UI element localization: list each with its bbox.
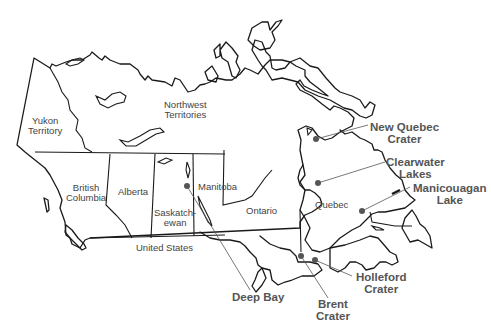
crater-marker-deep-bay xyxy=(184,183,190,189)
leader-deep-bay xyxy=(187,186,250,290)
haida-gwaii xyxy=(44,198,49,212)
manicouagan-reservoir xyxy=(392,190,400,194)
region-label-nwt: Northwest Territories xyxy=(164,100,207,120)
crater-marker-clearwater xyxy=(315,180,321,186)
region-label-bc: British Columbia xyxy=(66,183,106,203)
crater-marker-holleford xyxy=(312,257,318,263)
region-label-alberta: Alberta xyxy=(118,187,148,197)
region-nwt-line2: Territories xyxy=(164,110,207,120)
crater-label-brent: Brent Crater xyxy=(316,298,350,322)
crater-clearwater-line1: Clearwater xyxy=(386,156,445,168)
crater-new-quebec-line1: New Quebec xyxy=(370,121,439,133)
ontario-quebec-border xyxy=(300,210,301,252)
crater-marker-new-quebec xyxy=(313,136,319,142)
lake-winnipeg xyxy=(198,196,212,226)
region-label-us: United States xyxy=(136,243,193,253)
region-label-quebec: Quebec xyxy=(315,200,348,210)
region-us-line1: United States xyxy=(136,243,193,253)
region-ontario-line1: Ontario xyxy=(246,206,277,216)
crater-label-clearwater: Clearwater Lakes xyxy=(386,156,445,180)
manitoba-ontario-border xyxy=(223,150,272,205)
arctic-islands xyxy=(205,42,240,82)
crater-label-deep-bay: Deep Bay xyxy=(232,291,284,303)
quebec-labrador-border xyxy=(370,212,412,226)
region-manitoba-line1: Manitoba xyxy=(198,182,237,192)
maritimes-coastline xyxy=(330,236,398,272)
reindeer-lake xyxy=(186,162,190,178)
arctic-coastal-island xyxy=(66,58,84,66)
region-alberta-line1: Alberta xyxy=(118,187,148,197)
region-quebec-line1: Quebec xyxy=(315,200,348,210)
region-yukon-line2: Territory xyxy=(28,126,62,136)
crater-manicouagan-line2: Lake xyxy=(413,194,486,206)
60th-parallel-border xyxy=(35,152,225,154)
crater-manicouagan-line1: Manicouagan xyxy=(413,182,486,194)
lake-athabasca xyxy=(158,158,172,164)
ungava-island xyxy=(307,128,312,135)
newfoundland-coastline xyxy=(402,210,432,248)
crater-label-manicouagan: Manicouagan Lake xyxy=(413,182,486,206)
region-label-yukon: Yukon Territory xyxy=(28,116,62,136)
leader-new-quebec xyxy=(316,125,368,139)
anticosti-island xyxy=(372,226,384,230)
region-sask-line2: ewan xyxy=(154,218,196,228)
crater-brent-line2: Crater xyxy=(316,310,350,322)
baffin-island xyxy=(252,40,375,118)
crater-label-holleford: Holleford Crater xyxy=(356,271,406,295)
great-lakes-coastline xyxy=(200,232,322,285)
region-bc-line2: Columbia xyxy=(66,193,106,203)
crater-brent-line1: Brent xyxy=(316,298,350,310)
crater-new-quebec-line2: Crater xyxy=(370,133,439,145)
crater-label-new-quebec: New Quebec Crater xyxy=(370,121,439,145)
leader-manicouagan xyxy=(362,187,410,211)
crater-marker-brent xyxy=(298,253,304,259)
great-bear-lake xyxy=(96,92,126,108)
crater-holleford-line1: Holleford xyxy=(356,271,406,283)
region-label-ontario: Ontario xyxy=(246,206,277,216)
yukon-nwt-border xyxy=(50,68,92,152)
crater-clearwater-line2: Lakes xyxy=(386,168,445,180)
region-label-saskatchewan: Saskatch- ewan xyxy=(154,208,196,228)
region-label-manitoba: Manitoba xyxy=(198,182,237,192)
lake-michigan xyxy=(252,268,266,292)
great-slave-lake xyxy=(120,128,164,146)
crater-deep-bay-line1: Deep Bay xyxy=(232,291,284,303)
crater-marker-manicouagan xyxy=(359,208,365,214)
leader-clearwater xyxy=(318,162,385,183)
crater-holleford-line2: Crater xyxy=(356,283,406,295)
ellesmere-island xyxy=(248,20,282,50)
